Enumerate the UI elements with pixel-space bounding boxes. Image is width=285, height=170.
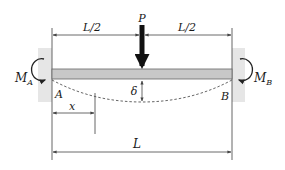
load-label: P (137, 12, 146, 25)
right-wall (232, 48, 245, 102)
span-label: L (132, 137, 141, 151)
left-wall (38, 48, 52, 102)
deflection-label: δ (131, 85, 138, 98)
support-b-label: B (220, 90, 229, 103)
support-a-label: A (54, 88, 63, 101)
half-span-right-label: L/2 (177, 21, 196, 34)
position-label: x (69, 100, 76, 113)
beam (52, 69, 232, 79)
moment-left-label: MA (14, 71, 33, 87)
beam-diagram: L/2 L/2 P δ MA MB A B x L (0, 0, 285, 170)
half-span-left-label: L/2 (82, 21, 101, 34)
moment-right-label: MB (253, 71, 272, 87)
